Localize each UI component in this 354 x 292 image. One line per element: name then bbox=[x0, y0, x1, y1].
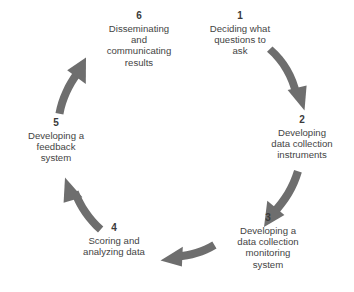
step-3: 3 Developing a data collection monitorin… bbox=[216, 212, 320, 270]
arrow-3-to-4 bbox=[161, 242, 217, 267]
step-2: 2 Developing data collection instruments bbox=[252, 114, 352, 161]
process-cycle-diagram: 1 Deciding what questions to ask 2 Devel… bbox=[0, 0, 354, 292]
step-5-label: Developing a feedback system bbox=[8, 130, 104, 164]
step-2-number: 2 bbox=[252, 114, 352, 126]
step-1-label: Deciding what questions to ask bbox=[192, 23, 288, 57]
step-4-number: 4 bbox=[60, 222, 168, 234]
step-6-label: Disseminating and communicating results bbox=[84, 23, 194, 68]
step-5: 5 Developing a feedback system bbox=[8, 117, 104, 164]
arrow-5-to-6 bbox=[56, 58, 87, 115]
step-2-label: Developing data collection instruments bbox=[252, 127, 352, 161]
step-4-label: Scoring and analyzing data bbox=[60, 235, 168, 258]
step-1-number: 1 bbox=[192, 10, 288, 22]
step-5-number: 5 bbox=[8, 117, 104, 129]
step-3-label: Developing a data collection monitoring … bbox=[216, 225, 320, 270]
step-6-number: 6 bbox=[84, 10, 194, 22]
step-3-number: 3 bbox=[216, 212, 320, 224]
step-1: 1 Deciding what questions to ask bbox=[192, 10, 288, 57]
step-6: 6 Disseminating and communicating result… bbox=[84, 10, 194, 68]
step-4: 4 Scoring and analyzing data bbox=[60, 222, 168, 257]
